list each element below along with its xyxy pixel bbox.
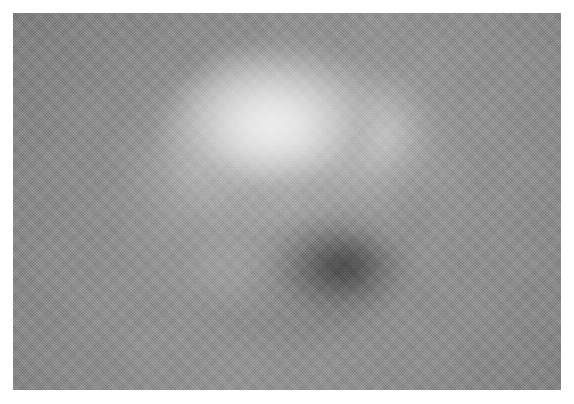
figure-canvas: Blurred grayscale halftone image of a ro…	[0, 0, 574, 404]
image-plate	[13, 13, 561, 390]
figure-alt-text: Blurred grayscale halftone image of a ro…	[0, 0, 1, 1]
plate-vignette	[13, 13, 561, 390]
